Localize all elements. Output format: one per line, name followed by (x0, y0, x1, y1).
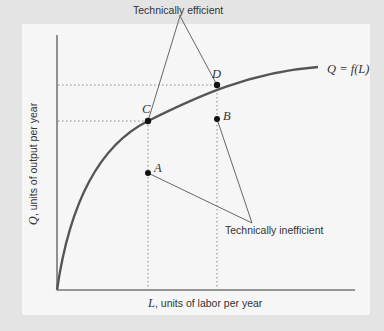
x-axis-label: L, units of labor per year (148, 296, 262, 311)
x-axis-var: L (148, 296, 155, 310)
production-curve (57, 67, 318, 290)
chart-svg (0, 0, 384, 331)
inefficient-leader (148, 119, 252, 223)
point-d-label: D (212, 67, 221, 82)
point-d (214, 82, 220, 88)
point-c (145, 118, 151, 124)
point-c-label: C (142, 102, 150, 117)
point-b-label: B (223, 109, 231, 124)
efficient-label: Technically efficient (133, 4, 223, 16)
curve-label: Q = f(L) (327, 62, 369, 77)
y-axis-var: Q (26, 216, 40, 225)
point-a (145, 170, 151, 176)
point-b (214, 116, 220, 122)
inefficient-label: Technically inefficient (225, 224, 323, 236)
point-a-label: A (154, 161, 162, 176)
y-axis-text: , units of output per year (27, 103, 39, 216)
y-axis-label: Q, units of output per year (26, 103, 41, 225)
x-axis-text: , units of labor per year (155, 297, 262, 309)
